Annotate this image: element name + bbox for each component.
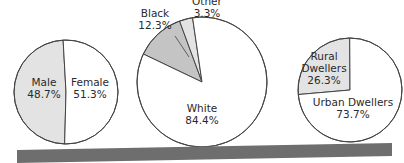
pie-charts: Male48.7%Female51.3%White84.4%Black12.3%… — [0, 0, 404, 163]
pie-category-label: Dwellers — [301, 62, 346, 74]
pie-category-label: Male — [32, 76, 57, 88]
pie-value-label: 48.7% — [27, 88, 60, 100]
pie-category-label: Black — [141, 7, 170, 19]
pie-value-label: 51.3% — [73, 88, 106, 100]
pie-category-label: Other — [192, 0, 222, 7]
pie-value-label: 84.4% — [185, 114, 218, 126]
pie-category-label: Urban Dwellers — [313, 96, 393, 108]
pie-category-label: Female — [71, 76, 109, 88]
pie-category-label: White — [187, 102, 218, 114]
pie-value-label: 26.3% — [307, 74, 340, 86]
pie-value-label: 73.7% — [336, 108, 369, 120]
pie-value-label: 3.3% — [194, 7, 221, 19]
pie-category-label: Rural — [310, 50, 337, 62]
pie-value-label: 12.3% — [138, 19, 171, 31]
